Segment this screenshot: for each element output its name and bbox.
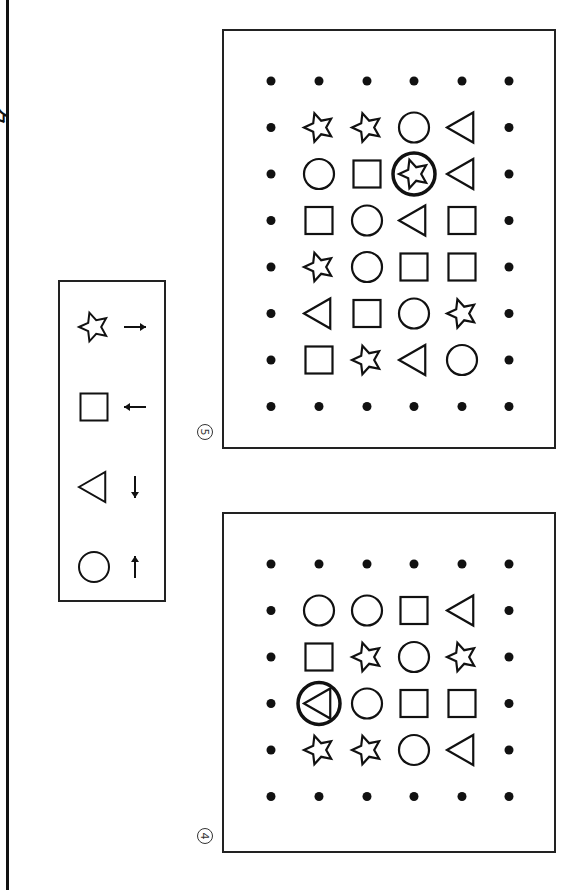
triangle-shape — [304, 299, 330, 329]
grid-dot — [458, 792, 467, 801]
grid-dot — [267, 402, 276, 411]
circle-shape — [399, 113, 429, 143]
grid-dot — [505, 170, 514, 179]
star-shape — [304, 736, 331, 765]
grid-dot — [315, 792, 324, 801]
grid-dot — [410, 560, 419, 569]
grid-dot — [267, 699, 276, 708]
triangle-shape — [399, 206, 425, 236]
grid-dot — [267, 746, 276, 755]
star-shape — [447, 299, 474, 328]
grid-dot — [363, 402, 372, 411]
circle-shape — [447, 345, 477, 375]
square-shape — [306, 347, 333, 374]
square-shape — [449, 690, 476, 717]
square-shape — [449, 207, 476, 234]
grid-dot — [267, 653, 276, 662]
grid-dot — [267, 170, 276, 179]
puzzle-board-5 — [222, 29, 556, 449]
triangle-shape — [447, 159, 473, 189]
square-shape — [401, 254, 428, 281]
star-shape — [352, 113, 379, 142]
svg-text:5: 5 — [198, 429, 211, 436]
triangle-shape — [447, 596, 473, 626]
grid-dot — [267, 263, 276, 272]
square-shape — [449, 254, 476, 281]
square-shape — [401, 597, 428, 624]
grid-dot — [458, 402, 467, 411]
grid-dot — [410, 402, 419, 411]
grid-dot — [267, 123, 276, 132]
grid-dot — [505, 560, 514, 569]
square-shape — [81, 394, 108, 421]
grid-dot — [505, 77, 514, 86]
page-margin-rule — [6, 0, 9, 890]
grid-dot — [363, 560, 372, 569]
circle-shape — [399, 642, 429, 672]
grid-dot — [505, 216, 514, 225]
grid-dot — [410, 792, 419, 801]
grid-dot — [505, 309, 514, 318]
circle-shape — [399, 299, 429, 329]
star-shape — [352, 643, 379, 672]
grid-dot — [505, 792, 514, 801]
circle-shape — [304, 596, 334, 626]
square-shape — [401, 690, 428, 717]
board-number-label: 4 — [196, 827, 214, 845]
circle-shape — [352, 252, 382, 282]
star-shape — [304, 113, 331, 142]
circle-shape — [79, 552, 109, 582]
grid-dot — [505, 123, 514, 132]
cropped-heading: ク — [0, 100, 6, 190]
triangle-shape — [304, 689, 330, 719]
grid-dot — [363, 77, 372, 86]
grid-dot — [505, 699, 514, 708]
grid-dot — [505, 263, 514, 272]
star-shape — [447, 643, 474, 672]
star-shape — [352, 346, 379, 375]
square-shape — [306, 207, 333, 234]
triangle-shape — [79, 472, 105, 502]
grid-dot — [267, 356, 276, 365]
circle-shape — [352, 689, 382, 719]
puzzle-board-4 — [222, 512, 556, 853]
grid-dot — [458, 77, 467, 86]
grid-dot — [410, 77, 419, 86]
square-shape — [306, 644, 333, 671]
star-shape — [79, 313, 106, 342]
legend-item-triangle — [60, 467, 164, 507]
arrow-up-icon — [131, 556, 139, 578]
board-number-label: 5 — [196, 423, 214, 441]
grid-dot — [505, 356, 514, 365]
star-shape — [352, 736, 379, 765]
star-shape — [304, 253, 331, 282]
grid-dot — [505, 606, 514, 615]
circle-shape — [399, 735, 429, 765]
square-shape — [354, 300, 381, 327]
grid-dot — [458, 560, 467, 569]
grid-dot — [267, 792, 276, 801]
grid-dot — [315, 77, 324, 86]
grid-dot — [267, 216, 276, 225]
legend-box — [58, 280, 166, 602]
grid-dot — [267, 606, 276, 615]
legend-item-square — [60, 387, 164, 427]
grid-dot — [267, 77, 276, 86]
triangle-shape — [447, 113, 473, 143]
legend-item-star — [60, 307, 164, 347]
grid-dot — [315, 560, 324, 569]
grid-dot — [267, 309, 276, 318]
grid-dot — [363, 792, 372, 801]
circle-shape — [352, 206, 382, 236]
star-shape — [399, 160, 426, 189]
circle-shape — [304, 159, 334, 189]
triangle-shape — [447, 735, 473, 765]
square-shape — [354, 161, 381, 188]
grid-dot — [267, 560, 276, 569]
circle-shape — [352, 596, 382, 626]
svg-text:4: 4 — [198, 833, 211, 840]
arrow-down-icon — [131, 476, 139, 498]
grid-dot — [505, 653, 514, 662]
grid-dot — [505, 402, 514, 411]
triangle-shape — [399, 345, 425, 375]
